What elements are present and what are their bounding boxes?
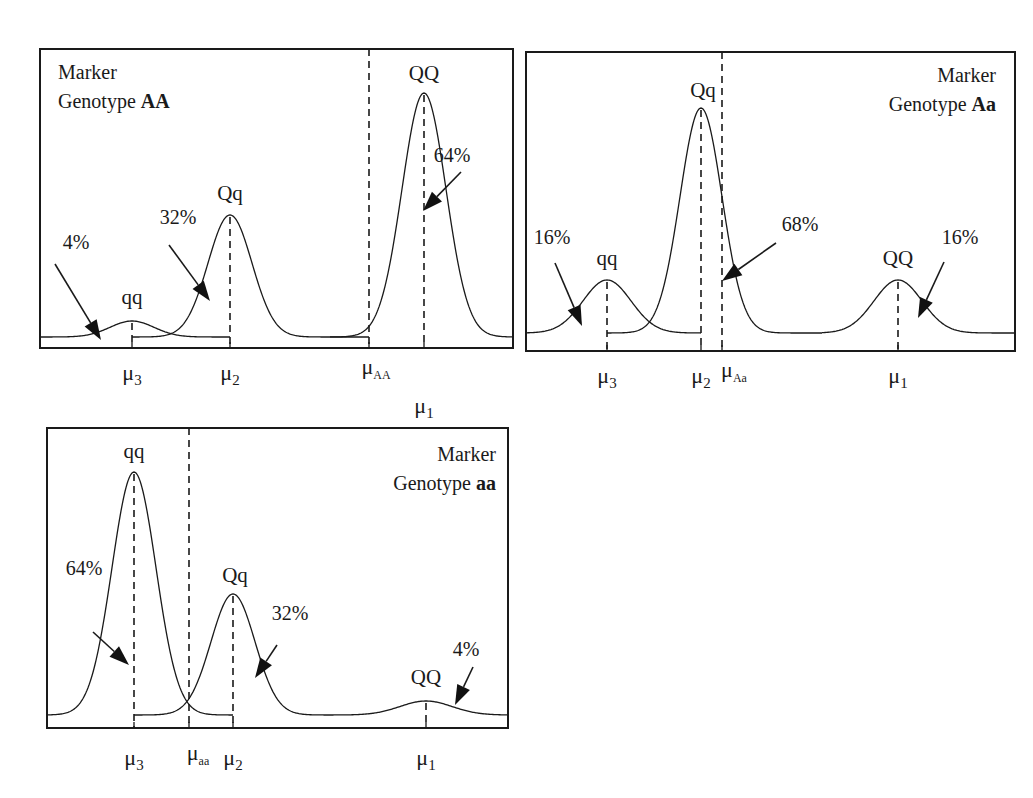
genotype-word: Genotype xyxy=(393,472,476,495)
proportion-arrow-Qq-head xyxy=(722,264,742,281)
proportion-arrow-qq-shaft xyxy=(555,263,574,308)
mean-label-Qq-subscript: 2 xyxy=(703,375,711,391)
figure-canvas: MarkerGenotype AAμAAqq4%μ3Qq32%μ2QQ64%μ1… xyxy=(0,0,1033,798)
mean-label-Qq-base: μ xyxy=(223,745,235,770)
density-curve-Qq xyxy=(132,215,369,337)
marker-mean-label-base: μ xyxy=(361,354,373,379)
mean-label-QQ: μ1 xyxy=(414,393,433,421)
mean-label-QQ-subscript: 1 xyxy=(426,405,434,421)
marker-mean-label: μAa xyxy=(721,357,747,385)
proportion-label-Qq: 32% xyxy=(272,602,309,624)
proportion-arrow-qq-shaft xyxy=(93,632,114,651)
mean-label-qq: μ3 xyxy=(122,360,141,388)
panel-title-line1: Marker xyxy=(58,61,117,83)
proportion-arrow-qq-head xyxy=(568,305,582,326)
panel-marker-AA: MarkerGenotype AAμAAqq4%μ3Qq32%μ2QQ64%μ1 xyxy=(40,49,513,421)
marker-mean-label-base: μ xyxy=(721,357,733,382)
mean-label-QQ-subscript: 1 xyxy=(900,375,908,391)
proportion-arrow-Qq-shaft xyxy=(738,243,776,269)
panel-title-line1: Marker xyxy=(937,64,996,86)
marker-mean-label-subscript: Aa xyxy=(733,371,748,385)
proportion-label-qq: 16% xyxy=(534,226,571,248)
marker-mean-label: μaa xyxy=(187,740,210,768)
component-qq: qq16%μ3 xyxy=(526,226,701,391)
marker-genotype: AA xyxy=(141,90,170,112)
mean-label-Qq: μ2 xyxy=(220,360,239,388)
genotype-label-Qq: Qq xyxy=(222,563,248,587)
genotype-label-QQ: QQ xyxy=(409,61,439,85)
genotype-label-QQ: QQ xyxy=(883,246,913,270)
proportion-label-qq: 64% xyxy=(66,557,103,579)
mean-label-Qq: μ2 xyxy=(223,745,242,773)
mean-label-qq-subscript: 3 xyxy=(609,375,617,391)
mean-label-QQ-subscript: 1 xyxy=(428,757,436,773)
proportion-label-QQ: 4% xyxy=(453,638,480,660)
proportion-arrow-Qq-shaft xyxy=(169,245,198,285)
proportion-arrow-Qq-head xyxy=(193,281,210,301)
genotype-label-qq: qq xyxy=(124,439,146,463)
panel-marker-Aa: MarkerGenotype AaμAaqq16%μ3Qq68%μ2QQ16%μ… xyxy=(526,52,1015,391)
component-Qq: Qq68%μ2 xyxy=(607,78,822,391)
mean-label-Qq: μ2 xyxy=(691,363,710,391)
proportion-arrow-QQ-head xyxy=(455,684,470,705)
mean-label-QQ-base: μ xyxy=(416,745,428,770)
genotype-label-qq: qq xyxy=(597,246,619,270)
proportion-arrow-Qq-head xyxy=(255,657,272,678)
proportion-label-QQ: 64% xyxy=(434,144,471,166)
mean-label-qq-subscript: 3 xyxy=(136,757,144,773)
mean-label-QQ: μ1 xyxy=(888,363,907,391)
component-QQ: QQ64%μ1 xyxy=(330,61,513,421)
marker-mean-label-subscript: aa xyxy=(199,754,210,768)
proportion-label-Qq: 68% xyxy=(782,213,819,235)
mean-label-QQ-base: μ xyxy=(888,363,900,388)
component-QQ: QQ16%μ1 xyxy=(822,226,1015,391)
panel-title-line2: Genotype aa xyxy=(393,472,496,495)
panel-title-line2: Genotype AA xyxy=(58,90,170,113)
mean-label-qq: μ3 xyxy=(597,363,616,391)
mean-label-Qq-base: μ xyxy=(220,360,232,385)
component-QQ: QQ4%μ1 xyxy=(330,638,508,773)
genotype-word: Genotype xyxy=(58,90,141,113)
proportion-label-Qq: 32% xyxy=(160,206,197,228)
marker-genotype: aa xyxy=(476,472,496,494)
mean-label-Qq-base: μ xyxy=(691,363,703,388)
proportion-arrow-qq-head xyxy=(85,319,101,340)
density-curve-qq xyxy=(526,280,701,333)
component-Qq: Qq32%μ2 xyxy=(134,563,330,773)
mean-label-qq-base: μ xyxy=(122,360,134,385)
proportion-arrow-QQ-head xyxy=(918,297,933,318)
mean-label-QQ-base: μ xyxy=(414,393,426,418)
panel-title-line2: Genotype Aa xyxy=(889,93,996,116)
marker-mean-label-base: μ xyxy=(187,740,199,765)
mean-label-Qq-subscript: 2 xyxy=(235,757,243,773)
genotype-label-QQ: QQ xyxy=(411,665,441,689)
density-curve-qq xyxy=(47,472,233,715)
marker-mean-label: μAA xyxy=(361,354,390,382)
mean-label-Qq-subscript: 2 xyxy=(232,372,240,388)
component-qq: qq64%μ3 xyxy=(47,439,233,773)
proportion-label-QQ: 16% xyxy=(942,226,979,248)
density-curve-QQ xyxy=(822,280,1015,333)
proportion-arrow-QQ-shaft xyxy=(926,262,944,300)
mean-label-QQ: μ1 xyxy=(416,745,435,773)
mean-label-qq: μ3 xyxy=(124,745,143,773)
panel-marker-aa: MarkerGenotype aaμaaqq64%μ3Qq32%μ2QQ4%μ1 xyxy=(47,428,508,773)
mean-label-qq-base: μ xyxy=(597,363,609,388)
proportion-label-qq: 4% xyxy=(63,231,90,253)
proportion-arrow-Qq-shaft xyxy=(266,645,277,661)
mean-label-qq-base: μ xyxy=(124,745,136,770)
panel-title-line1: Marker xyxy=(437,443,496,465)
proportion-arrow-qq-shaft xyxy=(55,264,91,323)
component-qq: qq4%μ3 xyxy=(40,231,230,388)
proportion-arrow-QQ-shaft xyxy=(464,667,473,687)
density-curve-qq xyxy=(40,321,230,337)
marker-genotype: Aa xyxy=(972,93,996,115)
genotype-label-qq: qq xyxy=(122,285,144,309)
density-curve-QQ xyxy=(330,93,513,337)
genotype-word: Genotype xyxy=(889,93,972,116)
density-curve-QQ xyxy=(330,701,508,715)
mean-label-qq-subscript: 3 xyxy=(134,372,142,388)
marker-mean-label-subscript: AA xyxy=(373,368,391,382)
genotype-label-Qq: Qq xyxy=(690,78,716,102)
genotype-label-Qq: Qq xyxy=(217,181,243,205)
